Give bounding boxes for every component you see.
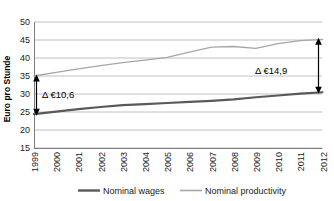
x-tick-label: 2007 xyxy=(208,152,218,172)
y-tick-label: 50 xyxy=(20,17,30,27)
gap-2012-label: Δ €14,9 xyxy=(255,65,287,76)
x-tick-label: 2001 xyxy=(74,152,84,172)
y-tick-label: 40 xyxy=(20,53,30,63)
y-tick-label: 15 xyxy=(20,143,30,153)
y-tick-label: 25 xyxy=(20,107,30,117)
x-tick-label: 2004 xyxy=(141,152,151,172)
y-tick-label: 45 xyxy=(20,35,30,45)
x-tick-label: 2011 xyxy=(296,152,306,171)
x-tick-label: 2008 xyxy=(230,152,240,172)
x-tick-label: 2000 xyxy=(52,152,62,172)
gap-1999-label: Δ €10,6 xyxy=(42,89,74,100)
line-chart: Euro pro Stunde 50 45 40 35 30 25 20 15 xyxy=(0,0,334,201)
x-tick-label: 2010 xyxy=(274,152,284,172)
chart-container: Euro pro Stunde 50 45 40 35 30 25 20 15 xyxy=(0,0,334,201)
x-tick-label: 2003 xyxy=(119,152,129,172)
x-tick-label: 2006 xyxy=(185,152,195,172)
x-tick-label: 2005 xyxy=(163,152,173,172)
y-axis-title: Euro pro Stunde xyxy=(2,55,12,122)
x-tick-label: 2009 xyxy=(252,152,262,172)
y-axis-title-label: Euro pro Stunde xyxy=(2,55,12,122)
x-tick-label: 2002 xyxy=(97,152,107,172)
legend-label-nominal-productivity: Nominal productivity xyxy=(205,186,287,196)
y-tick-label: 20 xyxy=(20,125,30,135)
x-tick-label: 1999 xyxy=(30,152,40,172)
x-tick-label: 2012 xyxy=(319,152,329,172)
legend-label-nominal-wages: Nominal wages xyxy=(103,186,165,196)
y-tick-label: 35 xyxy=(20,71,30,81)
y-tick-label: 30 xyxy=(20,89,30,99)
